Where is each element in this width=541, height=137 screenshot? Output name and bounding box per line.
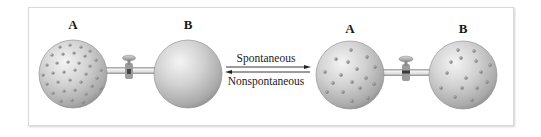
bulb-b-final <box>429 41 497 109</box>
final-state-apparatus: A B <box>316 21 497 109</box>
stopcock-open <box>399 56 413 81</box>
process-arrows: Spontaneous Nonspontaneous <box>225 52 311 88</box>
gas-expansion-diagram: A B Spontaneous Nonspontaneous <box>0 0 541 137</box>
nonspontaneous-label: Nonspontaneous <box>228 75 305 88</box>
spontaneous-label: Spontaneous <box>237 52 296 65</box>
bulb-a-label-initial: A <box>68 17 78 32</box>
bulb-a-initial <box>39 40 107 108</box>
forward-arrowhead-icon <box>304 65 311 69</box>
bulb-b-initial <box>154 40 222 108</box>
bulb-b-label-initial: B <box>184 17 193 32</box>
bulb-a-final <box>316 41 384 109</box>
reverse-arrowhead-icon <box>225 70 232 74</box>
bulb-a-label-final: A <box>345 21 355 36</box>
bulb-b-label-final: B <box>459 21 468 36</box>
initial-state-apparatus: A B <box>39 17 222 108</box>
